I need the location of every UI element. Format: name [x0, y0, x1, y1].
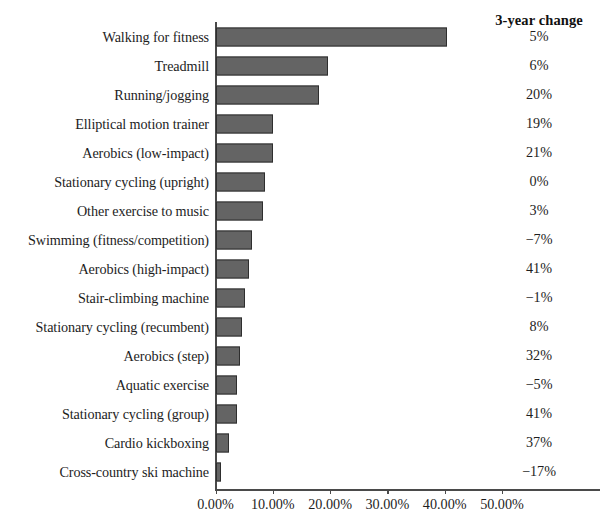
bar — [216, 259, 249, 278]
bar-wrapper — [216, 27, 447, 46]
x-tick — [387, 489, 388, 494]
category-label: Treadmill — [0, 58, 209, 74]
change-value: −1% — [469, 289, 609, 306]
bar-chart: 3-year change Walking for fitness5%Tread… — [0, 0, 613, 532]
bar — [216, 143, 273, 162]
bar-wrapper — [216, 230, 252, 249]
bar-wrapper — [216, 114, 273, 133]
change-value: 21% — [469, 144, 609, 161]
bar — [216, 114, 273, 133]
x-tick — [216, 489, 217, 494]
change-value: −17% — [469, 463, 609, 480]
bar — [216, 317, 242, 336]
bar-wrapper — [216, 375, 237, 394]
category-label: Stationary cycling (group) — [0, 406, 209, 422]
bar-wrapper — [216, 462, 221, 481]
bar — [216, 288, 245, 307]
bar-row: Stationary cycling (upright)0% — [0, 167, 613, 196]
bar-wrapper — [216, 172, 265, 191]
bar-wrapper — [216, 317, 242, 336]
bar-wrapper — [216, 346, 240, 365]
bar-rows: Walking for fitness5%Treadmill6%Running/… — [0, 22, 613, 486]
bar-row: Stationary cycling (recumbent)8% — [0, 312, 613, 341]
bar — [216, 85, 319, 104]
bar-wrapper — [216, 201, 263, 220]
bar-wrapper — [216, 56, 328, 75]
x-tick-label: 50.00% — [480, 496, 524, 513]
bar-wrapper — [216, 259, 249, 278]
bar-row: Swimming (fitness/competition)−7% — [0, 225, 613, 254]
bar-row: Walking for fitness5% — [0, 22, 613, 51]
category-label: Walking for fitness — [0, 29, 209, 45]
bar-wrapper — [216, 404, 237, 423]
category-label: Cardio kickboxing — [0, 435, 209, 451]
change-value: 19% — [469, 115, 609, 132]
bar — [216, 462, 221, 481]
change-value: 41% — [469, 260, 609, 277]
category-label: Other exercise to music — [0, 203, 209, 219]
category-label: Running/jogging — [0, 87, 209, 103]
plot-area: Walking for fitness5%Treadmill6%Running/… — [0, 22, 613, 490]
bar-row: Aerobics (high-impact)41% — [0, 254, 613, 283]
category-label: Aerobics (step) — [0, 348, 209, 364]
change-value: −5% — [469, 376, 609, 393]
bar-row: Treadmill6% — [0, 51, 613, 80]
change-value: 32% — [469, 347, 609, 364]
bar — [216, 172, 265, 191]
bar — [216, 404, 237, 423]
category-label: Aerobics (low-impact) — [0, 145, 209, 161]
bar — [216, 201, 263, 220]
bar — [216, 375, 237, 394]
category-label: Swimming (fitness/competition) — [0, 232, 209, 248]
bar-wrapper — [216, 143, 273, 162]
x-tick-label: 0.00% — [197, 496, 234, 513]
category-label: Stair-climbing machine — [0, 290, 209, 306]
change-value: 6% — [469, 57, 609, 74]
change-value: 8% — [469, 318, 609, 335]
change-value: 5% — [469, 28, 609, 45]
bar-row: Aerobics (low-impact)21% — [0, 138, 613, 167]
bar-row: Running/jogging20% — [0, 80, 613, 109]
x-tick-label: 10.00% — [251, 496, 295, 513]
change-value: −7% — [469, 231, 609, 248]
x-tick-label: 30.00% — [366, 496, 410, 513]
x-tick — [273, 489, 274, 494]
bar-row: Elliptical motion trainer19% — [0, 109, 613, 138]
x-tick-label: 20.00% — [308, 496, 352, 513]
bar-wrapper — [216, 288, 245, 307]
bar-wrapper — [216, 433, 229, 452]
bar-row: Cross-country ski machine−17% — [0, 457, 613, 486]
bar — [216, 230, 252, 249]
x-tick — [445, 489, 446, 494]
bar-row: Other exercise to music3% — [0, 196, 613, 225]
x-tick — [502, 489, 503, 494]
bar — [216, 56, 328, 75]
category-label: Stationary cycling (upright) — [0, 174, 209, 190]
change-value: 37% — [469, 434, 609, 451]
change-value: 41% — [469, 405, 609, 422]
bar-row: Stair-climbing machine−1% — [0, 283, 613, 312]
category-label: Elliptical motion trainer — [0, 116, 209, 132]
bar-row: Stationary cycling (group)41% — [0, 399, 613, 428]
bar-wrapper — [216, 85, 319, 104]
change-value: 20% — [469, 86, 609, 103]
bar-row: Aerobics (step)32% — [0, 341, 613, 370]
category-label: Cross-country ski machine — [0, 464, 209, 480]
category-label: Stationary cycling (recumbent) — [0, 319, 209, 335]
category-label: Aquatic exercise — [0, 377, 209, 393]
x-tick — [330, 489, 331, 494]
bar — [216, 27, 447, 46]
bar-row: Aquatic exercise−5% — [0, 370, 613, 399]
bar — [216, 433, 229, 452]
change-value: 0% — [469, 173, 609, 190]
change-value: 3% — [469, 202, 609, 219]
x-tick-label: 40.00% — [423, 496, 467, 513]
bar — [216, 346, 240, 365]
bar-row: Cardio kickboxing37% — [0, 428, 613, 457]
category-label: Aerobics (high-impact) — [0, 261, 209, 277]
